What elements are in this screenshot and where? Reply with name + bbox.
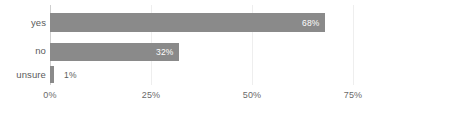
category-label-no: no: [0, 45, 46, 56]
category-label-yes: yes: [0, 17, 46, 28]
horizontal-bar-chart: yes no unsure 68% 32% 1% 0% 25% 50% 75%: [0, 0, 465, 113]
plot-area: yes no unsure 68% 32% 1% 0% 25% 50% 75%: [0, 0, 465, 113]
category-label-unsure: unsure: [0, 69, 46, 80]
xtick-label-50: 50%: [222, 90, 282, 100]
gridline-75pct: [353, 5, 354, 85]
xtick-label-75: 75%: [323, 90, 383, 100]
bar-unsure: [50, 66, 54, 83]
bar-value-unsure: 1%: [64, 70, 77, 80]
bar-value-yes: 68%: [302, 18, 320, 28]
bar-yes: [50, 13, 325, 32]
xtick-label-25: 25%: [121, 90, 181, 100]
bar-value-no: 32%: [156, 47, 174, 57]
xtick-label-0: 0%: [20, 90, 80, 100]
